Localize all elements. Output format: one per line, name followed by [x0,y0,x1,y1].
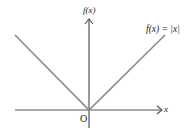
plot-area [0,0,188,136]
origin-label: O [80,114,87,124]
x-axis-label: x [164,105,168,114]
abs-function-curve [15,35,165,110]
y-axis-label: f(x) [83,6,96,15]
function-label: f(x) = |x| [146,25,180,35]
